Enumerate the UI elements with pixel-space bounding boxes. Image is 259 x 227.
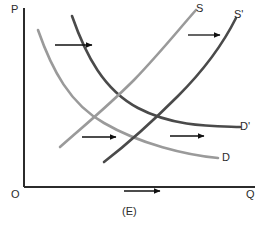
supply-demand-figure: P O Q S S' D D' (E) [0, 0, 259, 227]
curve-supply-initial [60, 10, 196, 147]
curve-label-demand-shifted: D' [240, 121, 250, 132]
curve-demand-initial [38, 30, 218, 158]
y-axis-label: P [11, 4, 18, 15]
curve-demand-shifted [72, 16, 240, 127]
x-axis-label: Q [246, 189, 255, 200]
shift-arrows [55, 35, 220, 191]
figure-caption: (E) [122, 206, 137, 217]
axes [24, 8, 255, 187]
origin-label: O [11, 189, 20, 200]
curve-label-supply-initial: S [196, 3, 203, 14]
curve-label-demand-initial: D [222, 152, 230, 163]
curve-label-supply-shifted: S' [234, 9, 243, 20]
supply-demand-plot [0, 0, 259, 227]
